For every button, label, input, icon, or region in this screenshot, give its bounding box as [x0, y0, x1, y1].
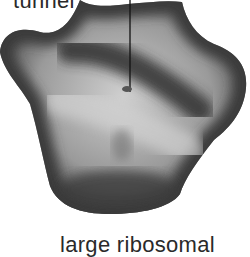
large-subunit-shape [0, 0, 246, 214]
tunnel-exit-icon [122, 86, 132, 92]
large-subunit-label: large ribosomal [60, 234, 215, 256]
tunnel-label: tunnel [13, 0, 75, 12]
